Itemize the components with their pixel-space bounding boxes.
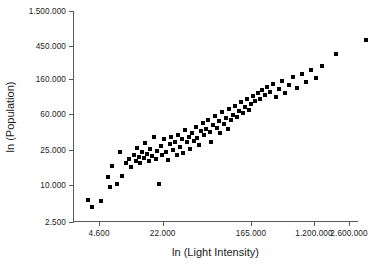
data-point xyxy=(249,102,253,106)
data-point xyxy=(291,75,295,79)
data-point xyxy=(253,99,257,103)
data-point xyxy=(208,130,212,134)
y-tick-label: 60.000 xyxy=(40,109,66,118)
data-point xyxy=(106,175,110,179)
data-point xyxy=(364,38,368,42)
data-point xyxy=(187,135,191,139)
scatter-markers xyxy=(74,11,359,222)
data-point xyxy=(124,161,128,165)
data-point xyxy=(178,145,182,149)
scatter-plot-figure: 1.500.000450.000160.00060.00025.00010.00… xyxy=(0,0,375,269)
y-tick-label: 10.000 xyxy=(40,181,66,190)
x-axis-title: ln (Light Intensity) xyxy=(73,246,358,258)
data-point xyxy=(245,97,249,101)
data-point xyxy=(271,82,275,86)
data-point xyxy=(171,148,175,152)
y-axis-title: ln (Population) xyxy=(2,11,18,222)
data-point xyxy=(154,157,158,161)
data-point xyxy=(247,108,251,112)
data-point xyxy=(166,158,170,162)
data-point xyxy=(140,150,144,154)
data-point xyxy=(227,107,231,111)
data-point xyxy=(260,88,264,92)
y-tick-label: 25.000 xyxy=(40,146,66,155)
data-point xyxy=(181,151,185,155)
data-point xyxy=(224,116,228,120)
x-tick-label: 22.000 xyxy=(150,229,176,238)
data-point xyxy=(120,174,124,178)
data-point xyxy=(300,72,304,76)
data-point xyxy=(215,126,219,130)
data-point xyxy=(211,123,215,127)
y-tick-label: 160.000 xyxy=(36,74,66,83)
data-point xyxy=(137,155,141,159)
data-point xyxy=(175,153,179,157)
data-point xyxy=(237,109,241,113)
data-point xyxy=(176,133,180,137)
data-point xyxy=(173,140,177,144)
data-point xyxy=(110,164,114,168)
data-point xyxy=(135,146,139,150)
data-point xyxy=(197,143,201,147)
data-point xyxy=(148,147,152,151)
data-point xyxy=(334,52,338,56)
data-point xyxy=(143,141,147,145)
data-point xyxy=(256,91,260,95)
data-point xyxy=(320,64,324,68)
data-point xyxy=(217,119,221,123)
y-tick-label: 450.000 xyxy=(36,42,66,51)
data-point xyxy=(185,140,189,144)
data-point xyxy=(277,87,281,91)
data-point xyxy=(180,137,184,141)
data-point xyxy=(169,135,173,139)
data-point xyxy=(287,83,291,87)
data-point xyxy=(222,122,226,126)
data-point xyxy=(263,93,267,97)
data-point xyxy=(235,115,239,119)
data-point xyxy=(127,157,131,161)
data-point xyxy=(86,198,90,202)
data-point xyxy=(147,159,151,163)
marker-group xyxy=(86,14,375,209)
y-tick-label: 1.500.000 xyxy=(29,7,66,16)
data-point xyxy=(150,154,154,158)
data-point xyxy=(204,127,208,131)
data-point xyxy=(280,79,284,83)
data-point xyxy=(164,150,168,154)
y-axis-title-text: ln (Population) xyxy=(4,81,16,152)
data-point xyxy=(145,152,149,156)
data-point xyxy=(226,127,230,131)
data-point xyxy=(188,147,192,151)
data-point xyxy=(258,97,262,101)
data-point xyxy=(168,142,172,146)
data-point xyxy=(283,91,287,95)
data-point xyxy=(218,131,222,135)
data-point xyxy=(152,135,156,139)
data-point xyxy=(118,150,122,154)
data-point xyxy=(309,68,313,72)
data-point xyxy=(129,165,133,169)
data-point xyxy=(268,90,272,94)
x-tick-label: 165.000 xyxy=(236,229,266,238)
data-point xyxy=(115,182,119,186)
data-point xyxy=(251,94,255,98)
x-tick-label: 4.600 xyxy=(89,229,110,238)
plot-area: 1.500.000450.000160.00060.00025.00010.00… xyxy=(73,11,358,222)
data-point xyxy=(108,185,112,189)
data-point xyxy=(190,131,194,135)
y-tick-label: 2.500 xyxy=(45,218,66,227)
data-point xyxy=(229,118,233,122)
data-point xyxy=(206,118,210,122)
data-point xyxy=(202,133,206,137)
data-point xyxy=(159,144,163,148)
data-point xyxy=(274,95,278,99)
data-point xyxy=(231,113,235,117)
data-point xyxy=(243,105,247,109)
data-point xyxy=(142,156,146,160)
data-point xyxy=(194,125,198,129)
data-point xyxy=(314,76,318,80)
data-point xyxy=(134,159,138,163)
data-point xyxy=(99,199,103,203)
data-point xyxy=(220,110,224,114)
data-point xyxy=(239,100,243,104)
